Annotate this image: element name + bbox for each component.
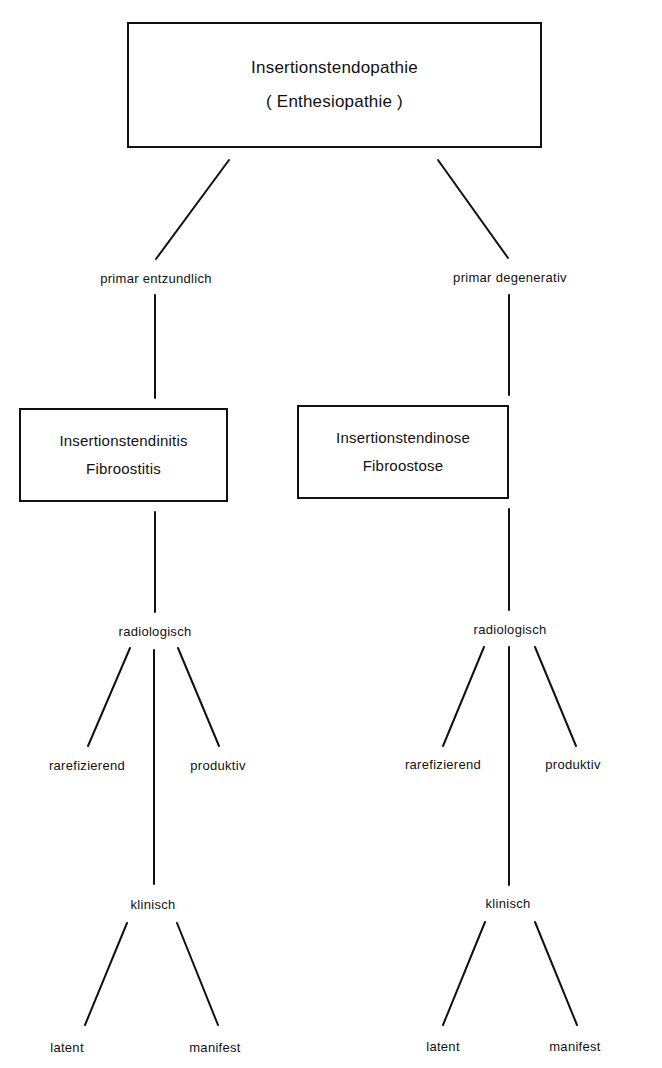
left-radiological-label: radiologisch bbox=[119, 624, 192, 639]
branch-label-right: primar degenerativ bbox=[453, 270, 567, 285]
connector-left-klin-latent bbox=[85, 923, 127, 1025]
right-rarefizierend-label: rarefizierend bbox=[405, 757, 481, 772]
right-box-title: Insertionstendinose bbox=[336, 424, 470, 452]
diagram-connectors bbox=[0, 0, 662, 1068]
connector-left-klin-manifest bbox=[177, 923, 218, 1025]
root-subtitle: ( Enthesiopathie ) bbox=[266, 85, 403, 119]
connector-left-radio-prod bbox=[178, 648, 219, 746]
connector-right-radio-prod bbox=[535, 647, 576, 746]
left-clinical-label: klinisch bbox=[130, 897, 175, 912]
right-manifest-label: manifest bbox=[549, 1039, 601, 1054]
left-manifest-label: manifest bbox=[189, 1040, 241, 1055]
connector-root-right bbox=[438, 160, 508, 258]
right-clinical-label: klinisch bbox=[485, 896, 530, 911]
left-latent-label: latent bbox=[50, 1040, 84, 1055]
root-box: Insertionstendopathie ( Enthesiopathie ) bbox=[127, 22, 542, 148]
connector-root-left bbox=[156, 160, 229, 259]
left-category-box: Insertionstendinitis Fibroostitis bbox=[19, 408, 228, 502]
root-title: Insertionstendopathie bbox=[251, 51, 418, 85]
branch-label-left: primar entzundlich bbox=[100, 271, 212, 286]
right-radiological-label: radiologisch bbox=[474, 622, 547, 637]
connector-left-radio-rare bbox=[88, 648, 130, 746]
connector-right-klin-manifest bbox=[535, 922, 577, 1025]
right-category-box: Insertionstendinose Fibroostose bbox=[297, 405, 509, 499]
left-box-title: Insertionstendinitis bbox=[59, 427, 187, 455]
right-latent-label: latent bbox=[426, 1039, 460, 1054]
left-box-subtitle: Fibroostitis bbox=[86, 455, 161, 483]
connector-right-radio-rare bbox=[443, 647, 484, 746]
connector-right-klin-latent bbox=[443, 922, 485, 1025]
left-produktiv-label: produktiv bbox=[190, 758, 245, 773]
right-box-subtitle: Fibroostose bbox=[363, 452, 444, 480]
right-produktiv-label: produktiv bbox=[545, 757, 600, 772]
left-rarefizierend-label: rarefizierend bbox=[49, 758, 125, 773]
